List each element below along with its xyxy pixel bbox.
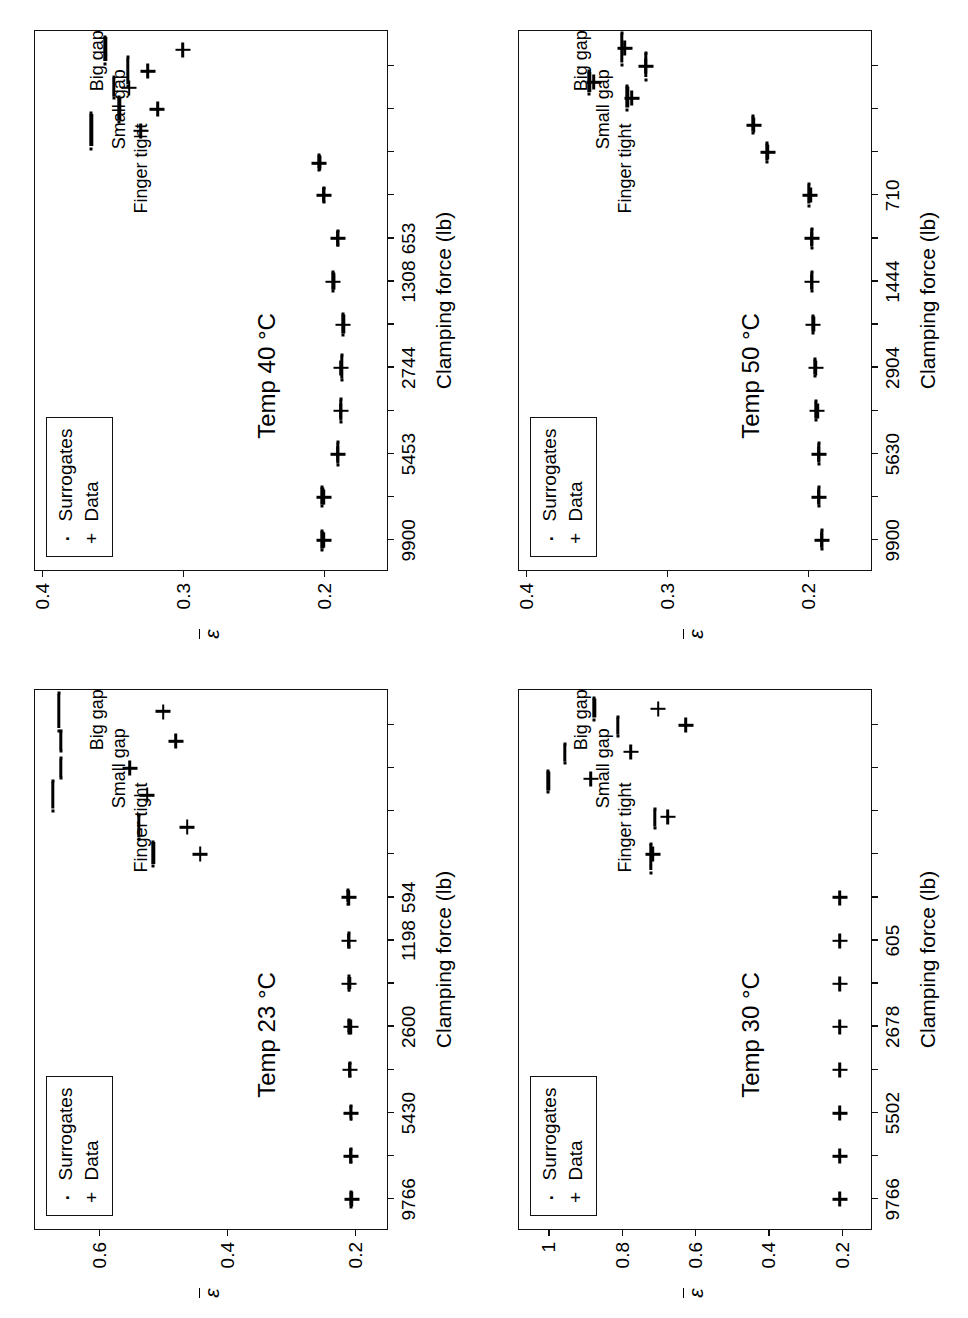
legend: ·Surrogates+Data — [530, 417, 597, 557]
surrogate-dot — [332, 270, 335, 273]
surrogate-dot — [620, 32, 623, 35]
y-tick — [227, 1229, 228, 1236]
y-tick — [808, 570, 809, 577]
x-tick-minor — [387, 767, 394, 768]
plot-area: 97665502267860510.80.60.40.2Finger tight… — [518, 689, 872, 1230]
data-marker — [341, 890, 356, 905]
y-axis-title: ε — [518, 623, 872, 645]
data-marker — [804, 274, 819, 289]
surrogate-dot — [810, 227, 813, 230]
data-marker — [333, 360, 348, 375]
y-tick — [842, 1229, 843, 1236]
x-tick-minor — [387, 1069, 394, 1070]
y-axis-title: ε — [518, 1282, 872, 1304]
x-axis-title: Clamping force (lb) — [432, 689, 456, 1230]
surrogate-dot — [820, 529, 823, 532]
legend: ·Surrogates+Data — [46, 1076, 113, 1216]
y-tick-label: 0.2 — [832, 1242, 851, 1268]
data-marker — [344, 1192, 359, 1207]
surrogate-dot — [644, 78, 647, 81]
surrogate-dot — [59, 777, 62, 780]
x-tick — [871, 939, 878, 940]
surrogate-dot — [321, 486, 324, 489]
surrogate-dot — [342, 312, 345, 315]
x-tick-label: 710 — [883, 180, 902, 212]
x-tick-minor — [387, 194, 394, 195]
x-tick-label: 2904 — [883, 347, 902, 389]
y-tick-label: 0.2 — [798, 583, 817, 609]
legend: ·Surrogates+Data — [530, 1076, 597, 1216]
x-tick — [387, 1198, 394, 1199]
x-tick-minor — [387, 323, 394, 324]
surrogate-dot — [152, 840, 155, 843]
plus-marker-icon: + — [563, 531, 589, 547]
data-marker — [316, 533, 331, 548]
epsilon-bar-symbol: ε — [199, 1288, 223, 1297]
y-tick — [548, 1229, 549, 1236]
x-tick-minor — [387, 810, 394, 811]
data-marker — [336, 317, 351, 332]
x-tick — [387, 1025, 394, 1026]
surrogate-marker — [547, 771, 550, 790]
surrogate-dot — [51, 779, 54, 782]
data-marker — [342, 976, 357, 991]
surrogate-marker — [592, 699, 595, 718]
surrogate-marker — [616, 717, 619, 734]
data-marker — [193, 847, 208, 862]
data-marker — [832, 976, 847, 991]
x-tick-label: 2678 — [883, 1006, 902, 1048]
annotation-big-gap: Big gap — [570, 689, 591, 750]
surrogate-dot — [336, 464, 339, 467]
dot-marker-icon: · — [59, 1190, 73, 1206]
x-tick — [387, 539, 394, 540]
y-tick-label: 0.3 — [657, 583, 676, 609]
data-marker — [761, 145, 776, 160]
annotation-finger-tight: Finger tight — [130, 782, 151, 872]
surrogate-dot — [810, 289, 813, 292]
surrogate-dot — [617, 715, 620, 718]
data-marker — [175, 42, 190, 57]
x-tick-label: 5430 — [399, 1092, 418, 1134]
data-marker — [333, 404, 348, 419]
y-tick — [695, 1229, 696, 1236]
surrogate-dot — [152, 865, 155, 868]
x-tick-minor — [871, 1155, 878, 1156]
x-tick — [387, 366, 394, 367]
dot-marker-icon: · — [543, 531, 557, 547]
surrogate-dot — [593, 718, 596, 721]
y-tick-label: 0.6 — [90, 1242, 109, 1268]
annotation-finger-tight: Finger tight — [614, 782, 635, 872]
surrogate-dot — [321, 505, 324, 508]
x-tick — [387, 1112, 394, 1113]
x-tick — [387, 896, 394, 897]
surrogate-dot — [547, 790, 550, 793]
surrogate-dot — [650, 842, 653, 845]
annotation-small-gap: Small gap — [109, 728, 130, 808]
annotation-small-gap: Small gap — [593, 69, 614, 149]
surrogate-dot — [817, 463, 820, 466]
legend-label: Surrogates — [53, 1088, 79, 1181]
data-marker — [623, 745, 638, 760]
y-tick — [99, 1229, 100, 1236]
data-marker — [342, 1063, 357, 1078]
x-tick — [871, 280, 878, 281]
legend-label: Surrogates — [537, 1088, 563, 1181]
x-tick-minor — [871, 1069, 878, 1070]
data-marker — [814, 533, 829, 548]
data-marker — [832, 1106, 847, 1121]
x-tick-minor — [871, 108, 878, 109]
legend-label: Data — [563, 1140, 589, 1180]
data-marker — [326, 274, 341, 289]
legend-label: Data — [79, 481, 105, 521]
surrogate-dot — [342, 333, 345, 336]
x-tick-minor — [871, 982, 878, 983]
data-marker — [168, 734, 183, 749]
data-marker — [832, 1149, 847, 1164]
data-marker — [809, 360, 824, 375]
y-tick-label: 0.4 — [759, 1242, 778, 1268]
legend-item-surrogates: ·Surrogates — [53, 1088, 79, 1206]
y-tick-label: 0.8 — [612, 1242, 631, 1268]
y-tick-label: 0.2 — [346, 1242, 365, 1268]
data-marker — [330, 231, 345, 246]
x-tick-minor — [871, 65, 878, 66]
